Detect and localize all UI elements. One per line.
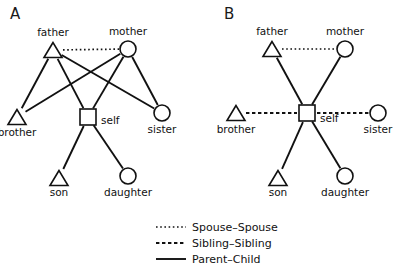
node-label-sister: sister [148,123,177,135]
panel-letter-b: B [224,5,234,23]
edge-parent-child-self-son [63,126,83,169]
node-sister-circle[interactable] [154,105,170,121]
legend-label-spouse: Spouse–Spouse [192,221,278,234]
edge-parent-child-self-daughter [312,122,340,169]
node-self-square[interactable] [80,109,96,125]
node-sister-circle[interactable] [370,105,386,121]
node-father-triangle[interactable] [44,43,62,58]
panel-a: fathermotherbrotherselfsistersondaughter… [0,5,177,198]
node-self-square[interactable] [299,105,315,121]
legend-label-parent-child: Parent–Child [192,253,260,266]
node-daughter-circle[interactable] [337,168,353,184]
edge-parent-child-mother-self [93,57,123,109]
edge-parent-child-self-son [282,122,303,169]
edge-parent-child-father-self [277,58,302,104]
node-label-son: son [269,186,288,198]
panel-b: fathermotherbrotherselfsistersondaughter… [217,5,393,198]
node-daughter-circle[interactable] [120,168,136,184]
node-label-brother: brother [0,126,37,138]
node-label-mother: mother [326,25,365,37]
node-brother-triangle[interactable] [227,106,245,121]
pedigree-svg: fathermotherbrotherselfsistersondaughter… [0,0,397,278]
edge-spouse-father-mother [63,49,119,50]
node-mother-circle[interactable] [120,41,136,57]
legend: Spouse–SpouseSibling–SiblingParent–Child [156,221,278,266]
pedigree-figure: fathermotherbrotherselfsistersondaughter… [0,0,397,278]
node-label-sister: sister [364,123,393,135]
node-label-daughter: daughter [321,186,370,198]
edge-parent-child-mother-self [312,57,340,105]
node-label-daughter: daughter [104,186,153,198]
node-son-triangle[interactable] [269,171,287,186]
node-label-father: father [256,25,288,37]
node-label-brother: brother [217,123,256,135]
edge-parent-child-self-daughter [94,125,123,168]
node-mother-circle[interactable] [337,41,353,57]
node-son-triangle[interactable] [50,171,68,186]
node-brother-triangle[interactable] [8,110,26,125]
node-label-mother: mother [109,25,148,37]
panel-letter-a: A [10,5,21,23]
node-label-father: father [37,26,69,38]
node-label-self: self [101,114,120,126]
node-father-triangle[interactable] [263,42,281,57]
legend-label-sibling: Sibling–Sibling [192,237,272,250]
node-label-self: self [320,112,339,124]
node-label-son: son [50,186,69,198]
